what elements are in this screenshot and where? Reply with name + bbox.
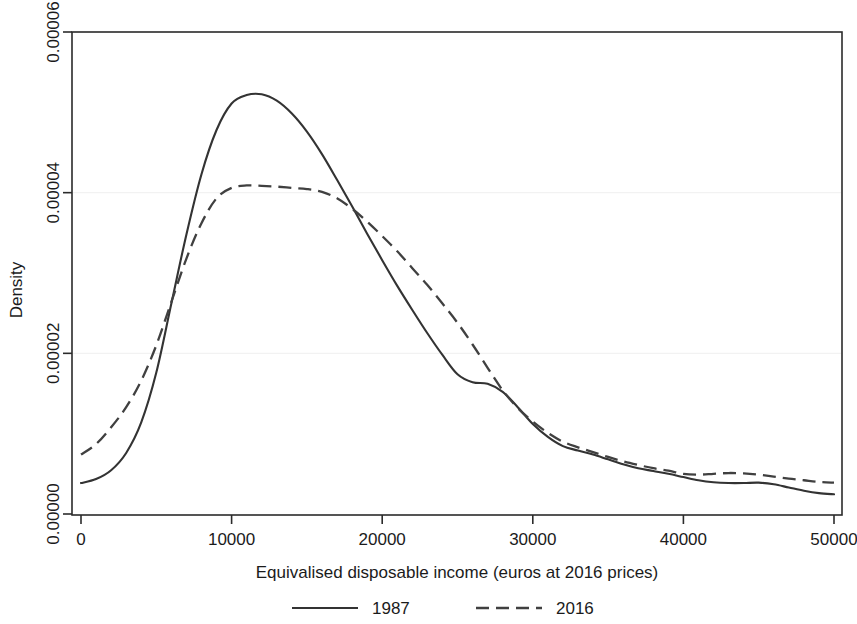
- x-axis-tick-label: 40000: [660, 530, 707, 549]
- y-axis-tick-label: 0.00002: [44, 323, 63, 384]
- x-axis-tick-label: 30000: [509, 530, 556, 549]
- chart-canvas: 01000020000300004000050000 0.000000.0000…: [0, 0, 857, 624]
- y-axis-tick-label: 0.00006: [44, 1, 63, 62]
- y-axis-tick-label: 0.00004: [44, 162, 63, 223]
- y-axis-tick-label: 0.00000: [44, 483, 63, 544]
- legend-label-1987: 1987: [372, 599, 410, 618]
- x-axis-tick-label: 20000: [359, 530, 406, 549]
- density-chart-figure: 01000020000300004000050000 0.000000.0000…: [0, 0, 857, 624]
- legend-label-2016: 2016: [556, 599, 594, 618]
- x-axis-title: Equivalised disposable income (euros at …: [256, 563, 659, 582]
- chart-background: [0, 0, 857, 624]
- x-axis-tick-label: 50000: [810, 530, 857, 549]
- x-axis-tick-label: 0: [76, 530, 85, 549]
- y-axis-title: Density: [7, 261, 26, 318]
- x-axis-tick-label: 10000: [208, 530, 255, 549]
